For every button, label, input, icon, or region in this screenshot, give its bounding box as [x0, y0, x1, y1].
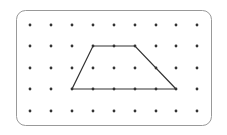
grid-dot [113, 67, 116, 70]
grid-dot [196, 88, 199, 91]
grid-dot [155, 45, 158, 48]
grid-dot [71, 67, 74, 70]
grid-dot [71, 110, 74, 113]
grid-dot [113, 110, 116, 113]
grid-dot [92, 110, 95, 113]
grid-dot [155, 24, 158, 27]
grid-dot [196, 24, 199, 27]
grid-dot [71, 45, 74, 48]
dot-grid-figure [0, 0, 227, 135]
grid-dot [29, 110, 32, 113]
grid-dot [92, 24, 95, 27]
grid-dot [71, 24, 74, 27]
grid-dot [50, 110, 53, 113]
grid-dot [134, 24, 137, 27]
grid-dot [134, 110, 137, 113]
grid-dot [113, 24, 116, 27]
grid-dot [29, 88, 32, 91]
grid-dot [155, 110, 158, 113]
grid-dot [50, 88, 53, 91]
grid-dot [134, 67, 137, 70]
grid-dot [175, 110, 178, 113]
grid-dot [29, 24, 32, 27]
grid-dot [50, 45, 53, 48]
grid-dot [196, 110, 199, 113]
grid-dot [196, 67, 199, 70]
grid-dot [29, 45, 32, 48]
grid-dot [175, 24, 178, 27]
grid-dot [29, 67, 32, 70]
grid-dot [196, 45, 199, 48]
grid-dot [50, 24, 53, 27]
grid-dot [175, 67, 178, 70]
grid-dot [50, 67, 53, 70]
grid-dot [92, 67, 95, 70]
grid-dot [175, 45, 178, 48]
